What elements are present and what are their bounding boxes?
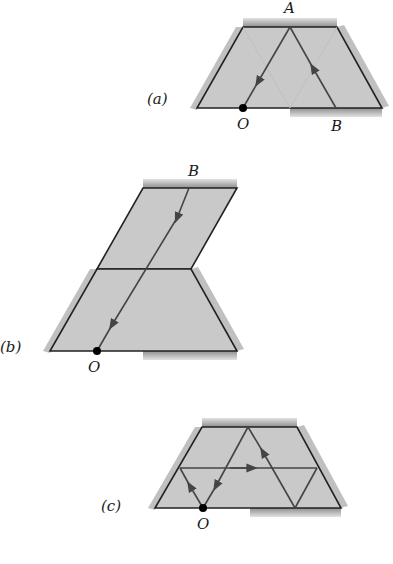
figure-label-c: (c) <box>101 497 121 515</box>
parallelogram-b <box>97 188 237 269</box>
top-mirror <box>243 18 337 27</box>
label-O: O <box>237 115 249 133</box>
figure-b: B O (b) <box>0 162 244 376</box>
bottom-mirror <box>290 108 382 117</box>
label-B: B <box>330 117 342 135</box>
top-mirror <box>202 418 297 427</box>
figure-label-a: (a) <box>147 90 168 108</box>
label-A: A <box>282 0 295 17</box>
origin-point <box>199 504 207 512</box>
figure-a: A O B (a) <box>147 0 389 135</box>
label-O: O <box>88 358 100 376</box>
figure-c: O (c) <box>101 418 348 533</box>
figure-label-b: (b) <box>0 338 21 356</box>
bottom-mirror <box>250 508 341 517</box>
trapezoid-b <box>50 269 237 351</box>
label-B: B <box>187 162 199 180</box>
origin-point <box>239 104 247 112</box>
diagram-canvas: A O B (a) B O (b) O (c) <box>0 0 393 564</box>
label-O: O <box>197 515 209 533</box>
top-mirror <box>143 179 237 188</box>
origin-point <box>93 347 101 355</box>
trapezoid-a <box>197 27 382 108</box>
bottom-mirror <box>143 351 237 360</box>
